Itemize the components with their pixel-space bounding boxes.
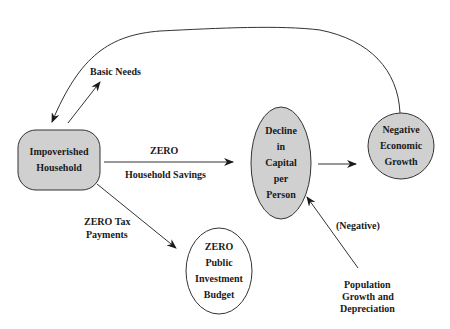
- decline-line-3: Capital: [265, 155, 297, 171]
- zero-tax-label-line-2: Payments: [86, 227, 128, 243]
- growth-line-3: Growth: [384, 154, 417, 170]
- household-node-label: Impoverished Household: [18, 130, 100, 190]
- growth-line-1: Negative: [382, 122, 419, 138]
- budget-line-4: Budget: [204, 287, 235, 303]
- negative-label: (Negative): [336, 218, 380, 234]
- budget-node-label: ZERO Public Investment Budget: [186, 228, 252, 314]
- decline-line-2: in: [277, 139, 285, 155]
- budget-line-1: ZERO: [205, 239, 233, 255]
- budget-line-2: Public: [205, 255, 232, 271]
- basic-needs-label: Basic Needs: [90, 64, 141, 80]
- zero-savings-label: ZERO: [150, 143, 178, 159]
- household-savings-label: Household Savings: [125, 167, 206, 183]
- growth-line-2: Economic: [380, 138, 422, 154]
- growth-node-label: Negative Economic Growth: [368, 113, 434, 179]
- budget-line-3: Investment: [195, 271, 243, 287]
- decline-line-5: Person: [266, 187, 295, 203]
- decline-line-4: per: [274, 171, 288, 187]
- household-line-1: Impoverished: [30, 144, 89, 160]
- decline-node-label: Decline in Capital per Person: [251, 107, 311, 219]
- decline-line-1: Decline: [265, 123, 297, 139]
- basic-needs-arrow: [68, 82, 100, 123]
- population-label-line-3: Depreciation: [340, 301, 395, 317]
- household-line-2: Household: [36, 160, 82, 176]
